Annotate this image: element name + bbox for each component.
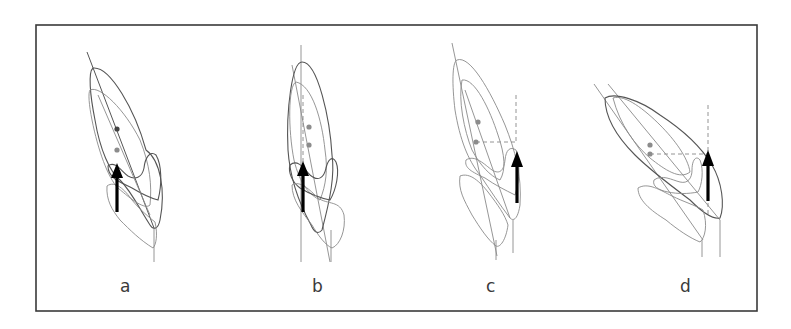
lower-outline [638,186,706,242]
outer-outline [453,60,520,220]
panel-label: b [312,276,323,296]
center-of-rotation-dot [114,147,119,152]
center-of-resistance-dot [306,124,311,129]
center-of-rotation-dot [473,139,478,144]
lower-outline [460,175,508,246]
panel-c: c [452,43,523,296]
force-arrow-icon [702,150,714,201]
force-arrow-icon [511,151,523,203]
panel-a: a [87,52,162,296]
crown-outline [654,158,703,193]
panel-label: a [120,276,130,296]
center-of-rotation-dot [306,142,311,147]
panel-label: c [486,276,495,296]
tilted-axis-line [452,43,497,256]
panel-d: d [594,84,722,296]
center-of-resistance-dot [475,119,480,124]
inner-outline-1 [461,80,504,180]
center-of-resistance-dot [647,142,652,147]
inner-outline-1 [290,82,327,200]
inner-outline-1 [89,89,151,206]
outer-outline [605,96,722,218]
center-of-resistance-dot [114,126,119,131]
panel-label: d [680,276,691,296]
panel-b: b [288,45,345,296]
lower-outline [292,184,344,248]
parallel-line [98,95,150,215]
center-of-rotation-dot [647,151,652,156]
figure-diagram: a b c [0,0,791,329]
crown-outline [466,148,519,195]
